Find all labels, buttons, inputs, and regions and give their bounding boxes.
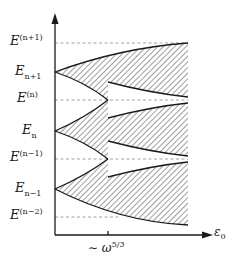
label-sub: n−1 [25, 189, 42, 198]
label-sup: (n−1) [20, 149, 43, 158]
label-E-n-plus-1-upper: E(n+1) [10, 34, 43, 47]
label-sub: 0 [220, 232, 225, 241]
label-sub: n+1 [25, 72, 42, 81]
label-E-n-plus-1: En+1 [15, 64, 41, 81]
label-E-n: En [22, 123, 37, 140]
label-sup: (n) [27, 90, 38, 99]
label-sup: (n+1) [20, 33, 43, 42]
label-base: E [10, 207, 20, 222]
label-sub: n [32, 131, 37, 140]
label-E-n-upper: E(n) [17, 91, 38, 104]
label-base: E [17, 90, 27, 105]
label-E-n-minus-1-upper: E(n−1) [10, 150, 43, 163]
label-base: E [15, 63, 25, 78]
label-base: ∼ ω [88, 241, 112, 255]
label-base: E [15, 180, 25, 195]
label-sup: (n−2) [20, 207, 43, 216]
label-base: E [10, 33, 20, 48]
label-base: E [10, 149, 20, 164]
label-E-n-minus-2-upper: E(n−2) [10, 208, 43, 221]
x-tick-label-omega: ∼ ω5/3 [88, 241, 125, 254]
label-sup: 5/3 [112, 240, 125, 249]
label-E-n-minus-1: En−1 [15, 181, 41, 198]
label-base: E [22, 122, 32, 137]
x-axis-label-epsilon0: ε0 [214, 226, 226, 241]
